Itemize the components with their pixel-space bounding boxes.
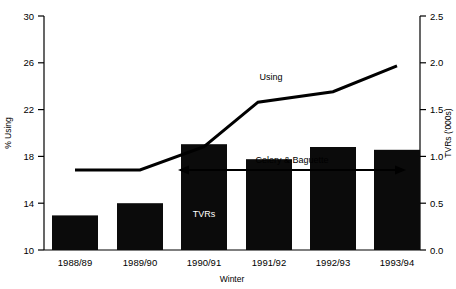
bar-1991-92[interactable] xyxy=(246,159,292,250)
chart-container: 30 26 22 18 14 10 % Using 2.5 xyxy=(0,0,456,289)
bar-1989-90[interactable] xyxy=(117,203,163,250)
left-tick-label-26: 26 xyxy=(23,57,34,68)
left-tick-label-30: 30 xyxy=(23,11,34,22)
bar-1990-91[interactable] xyxy=(181,144,227,250)
winter-usage-tvr-chart: 30 26 22 18 14 10 % Using 2.5 xyxy=(0,0,456,289)
tvrs-series-label: TVRs xyxy=(193,209,216,219)
right-axis-ticks xyxy=(420,16,426,250)
left-tick-label-22: 22 xyxy=(23,104,34,115)
right-tick-label-1-5: 1.5 xyxy=(430,104,443,115)
category-label-1: 1988/89 xyxy=(58,257,92,268)
category-label-6: 1993/94 xyxy=(380,257,414,268)
right-tick-label-2-5: 2.5 xyxy=(430,11,443,22)
category-label-2: 1989/90 xyxy=(123,257,157,268)
left-tick-label-10: 10 xyxy=(23,245,34,256)
right-axis-title: TVRs ('000s) xyxy=(443,108,453,157)
right-tick-label-2-0: 2.0 xyxy=(430,57,443,68)
x-axis-title: Winter xyxy=(220,274,245,284)
left-axis-tick-labels: 30 26 22 18 14 10 xyxy=(23,11,34,256)
left-tick-label-14: 14 xyxy=(23,198,34,209)
celery-baguette-label: Celery & Baguette xyxy=(255,155,328,165)
right-tick-label-1-0: 1.0 xyxy=(430,151,443,162)
category-label-3: 1990/91 xyxy=(187,257,221,268)
category-label-5: 1992/93 xyxy=(316,257,350,268)
bar-series-tvrs xyxy=(52,144,420,250)
x-axis-category-labels: 1988/89 1989/90 1990/91 1991/92 1992/93 … xyxy=(58,257,414,268)
left-axis: 30 26 22 18 14 10 % Using xyxy=(3,11,44,256)
right-axis: 2.5 2.0 1.5 1.0 0.5 0.0 TVRs ('000s) xyxy=(420,11,453,256)
using-series-label: Using xyxy=(259,72,282,82)
bar-1993-94[interactable] xyxy=(374,150,420,250)
category-label-4: 1991/92 xyxy=(252,257,286,268)
right-tick-label-0-5: 0.5 xyxy=(430,198,443,209)
left-tick-label-18: 18 xyxy=(23,151,34,162)
right-axis-tick-labels: 2.5 2.0 1.5 1.0 0.5 0.0 xyxy=(430,11,443,256)
bar-1988-89[interactable] xyxy=(52,215,98,250)
right-tick-label-0-0: 0.0 xyxy=(430,245,443,256)
left-axis-ticks xyxy=(38,16,44,250)
left-axis-title: % Using xyxy=(3,117,13,149)
